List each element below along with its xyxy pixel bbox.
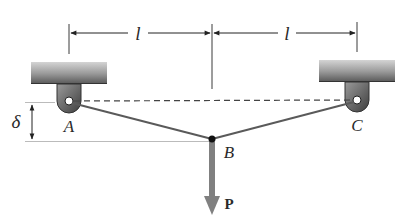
label-B: B [224,143,235,162]
label-A: A [63,117,75,136]
deflection-label: δ [12,111,22,132]
undeformed-reference-line [74,100,352,101]
two-bar-truss-diagram: l l δ A C B P [0,0,406,223]
bar-BC [212,102,354,139]
support-A [31,62,107,113]
bar-AB [72,103,212,139]
label-C: C [351,116,363,135]
dimension-extension-lines [69,22,357,89]
label-P: P [224,196,233,212]
span-label-right: l [284,23,289,44]
ceiling-block-right [319,60,395,81]
support-C [319,60,395,112]
deflection-dimension [25,103,210,142]
ceiling-block-left [31,62,107,83]
load-arrow-P [204,142,220,215]
joint-B [209,136,216,143]
span-label-left: l [135,23,140,44]
